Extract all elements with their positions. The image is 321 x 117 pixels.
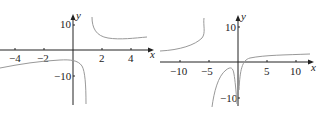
right-tick-label-x: 5 (264, 65, 270, 77)
right-tick-label-y: 10 (225, 21, 237, 33)
left-tick-label-y: 10 (60, 18, 72, 30)
right-x-axis-label: x (310, 61, 316, 73)
figure-canvas: −4 −2 2 4 10 −10 x y −10 −5 5 10 10 −10 (0, 0, 321, 117)
left-y-arrow-icon (71, 14, 76, 20)
left-tick-label-y: −10 (54, 70, 72, 82)
left-tick-label-x: −4 (9, 52, 21, 64)
right-tick-label-x: −5 (201, 65, 213, 77)
right-curve-far-left-branch (160, 18, 204, 51)
left-y-axis-label: y (75, 9, 81, 21)
left-tick-label-x: 4 (128, 52, 134, 64)
right-y-arrow-icon (236, 15, 241, 21)
left-x-axis-label: x (149, 48, 155, 60)
left-chart: −4 −2 2 4 10 −10 x y (0, 9, 155, 105)
right-y-axis-label: y (240, 10, 246, 22)
right-chart: −10 −5 5 10 10 −10 x y (160, 10, 316, 107)
right-tick-label-x: 10 (290, 65, 302, 77)
left-tick-label-x: 2 (99, 52, 105, 64)
right-tick-label-x: −10 (170, 65, 188, 77)
left-curve-upper-branch (92, 17, 147, 39)
right-tick-label-y: −10 (220, 92, 238, 104)
